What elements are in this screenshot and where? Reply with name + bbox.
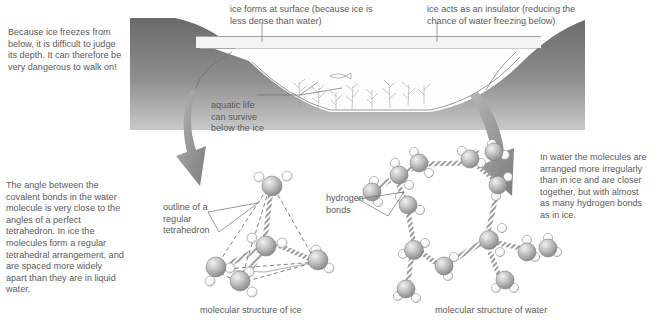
ice-layer xyxy=(196,36,541,49)
water-molecule xyxy=(480,223,507,256)
label-ice-forms-at-surface: ice forms at surface (because ice is les… xyxy=(230,4,430,27)
water-molecule xyxy=(393,280,420,303)
water-molecule xyxy=(491,271,518,293)
water-molecule xyxy=(395,192,424,214)
water-molecule xyxy=(308,245,334,273)
label-hydrogen-bonds: hydrogen bonds xyxy=(326,193,384,216)
caption-molecular-structure-of-water: molecular structure of water xyxy=(435,305,547,315)
caption-molecular-structure-of-ice: molecular structure of ice xyxy=(200,305,302,315)
hydrogen-bond-ice xyxy=(222,190,310,278)
water-molecule xyxy=(518,235,540,261)
water-molecular-structure xyxy=(363,139,562,302)
label-ice-insulator: ice acts as an insulator (reducing the c… xyxy=(427,4,642,27)
water-molecule xyxy=(254,171,292,196)
water-molecule xyxy=(435,252,459,280)
water-molecule xyxy=(539,233,562,257)
label-outline-of-tetrahedron: outline of a regular tetrahedron xyxy=(163,202,225,237)
label-water-irregular: In water the molecules are arranged more… xyxy=(540,152,655,222)
label-tetrahedral-angle: The angle between the covalent bonds in … xyxy=(6,180,141,296)
label-aquatic-life: aquatic life can survive below the ice xyxy=(211,100,301,135)
water-molecule xyxy=(230,267,257,297)
label-walk-warning: Because ice freezes from below, it is di… xyxy=(8,27,133,73)
